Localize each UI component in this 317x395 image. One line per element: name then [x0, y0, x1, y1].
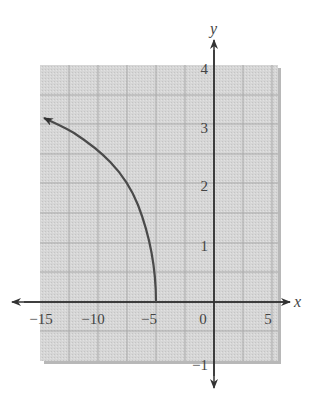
graph: −15 −10 −5 0 5 4 3 2 1 −1 x y — [0, 0, 317, 395]
x-tick-label: −15 — [29, 311, 52, 327]
x-tick-label: −10 — [81, 311, 104, 327]
x-tick-label: 0 — [199, 311, 207, 327]
x-tick-label: 5 — [264, 311, 272, 327]
x-axis-label: x — [293, 293, 301, 310]
y-tick-label: 4 — [201, 61, 209, 77]
y-tick-label: 3 — [201, 120, 209, 136]
y-tick-label: 1 — [201, 238, 209, 254]
y-axis-label: y — [208, 20, 218, 38]
y-tick-label: −1 — [192, 357, 208, 373]
x-tick-label: −5 — [141, 311, 157, 327]
y-tick-label: 2 — [201, 178, 209, 194]
